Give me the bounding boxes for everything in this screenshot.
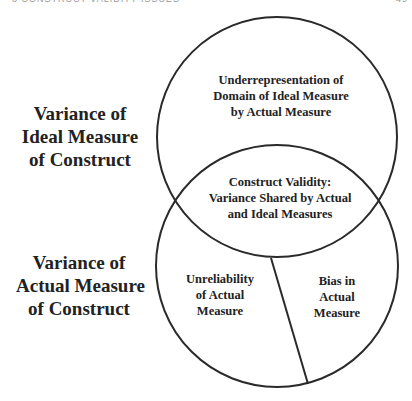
label-line: Underrepresentation of [196,72,366,88]
underrepresentation-region-label: Underrepresentation of Domain of Ideal M… [196,72,366,120]
label-line: Bias in [302,273,372,289]
label-line: Variance of [20,102,140,125]
label-line: Unreliability [172,271,268,287]
label-line: and Ideal Measures [190,206,370,222]
construct-validity-region-label: Construct Validity: Variance Shared by A… [190,174,370,222]
label-line: Variance Shared by Actual [190,190,370,206]
bias-region-label: Bias in Actual Measure [302,273,372,321]
label-line: by Actual Measure [196,104,366,120]
label-line: of Construct [20,148,140,171]
label-line: Construct Validity: [190,174,370,190]
unreliability-region-label: Unreliability of Actual Measure [172,271,268,319]
label-line: Variance of [16,251,142,274]
label-line: Actual [302,289,372,305]
label-line: Actual Measure [16,274,142,297]
label-line: of Construct [16,297,142,320]
ideal-measure-variance-label: Variance of Ideal Measure of Construct [20,102,140,171]
label-line: Measure [172,303,268,319]
label-line: of Actual [172,287,268,303]
actual-measure-variance-label: Variance of Actual Measure of Construct [16,251,142,320]
label-line: Measure [302,305,372,321]
label-line: Ideal Measure [20,125,140,148]
label-line: Domain of Ideal Measure [196,88,366,104]
